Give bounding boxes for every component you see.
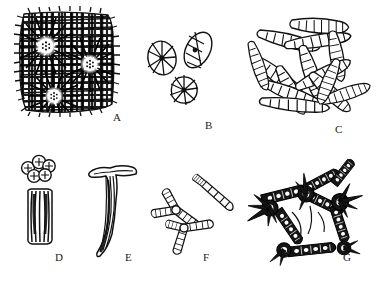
panel-c-tangled-rods (252, 12, 370, 124)
panel-a-rosette-block (14, 8, 120, 116)
panel-label-e: E (125, 252, 132, 263)
panel-label-a: A (113, 112, 121, 123)
panel-e-anchor-spicule (86, 160, 142, 260)
panel-label-b: B (205, 120, 213, 131)
panel-label-f: F (203, 252, 209, 263)
panel-d-striated-capsule (28, 189, 52, 244)
panel-f-stellate-spicules (148, 176, 240, 266)
panel-label-g: G (343, 252, 351, 263)
panel-e-interior-lines (94, 171, 133, 252)
panel-f-element-3 (191, 172, 235, 213)
panel-label-c: C (335, 124, 343, 135)
panel-d-granules-and-capsule (18, 154, 76, 254)
panel-e-spicule-body (89, 166, 137, 257)
panel-g-spiny-network (248, 166, 372, 270)
illustration-plate: A B (0, 0, 386, 283)
panel-c-rod-group (245, 16, 372, 117)
panel-label-d: D (55, 252, 63, 263)
panel-d-granule-cluster (22, 155, 56, 182)
panel-a-body (14, 8, 120, 122)
panel-f-element-2 (165, 219, 214, 255)
panel-b-radiating-discs (140, 26, 220, 116)
